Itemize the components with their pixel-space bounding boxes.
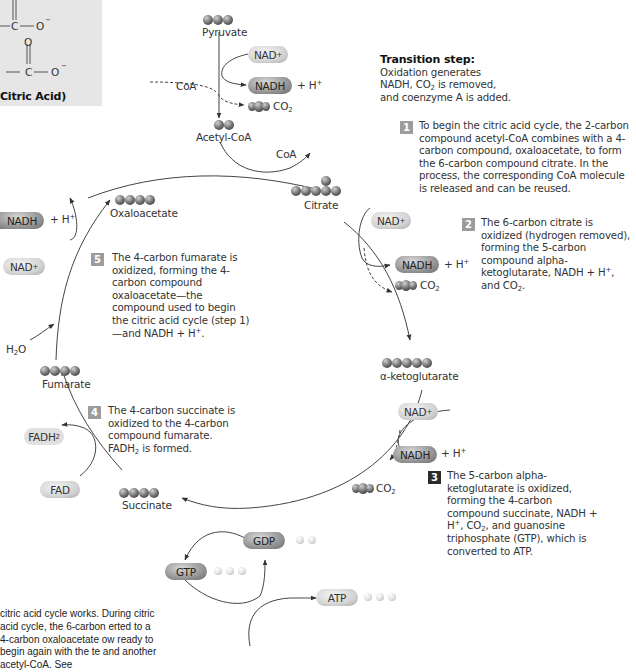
nad-plus-pill: NAD+ xyxy=(398,403,438,420)
carbon-atom xyxy=(40,366,50,376)
carbon-atom xyxy=(139,488,149,498)
co2-label: CO2 xyxy=(376,482,395,494)
citrate-label: Citrate xyxy=(304,199,338,211)
nad-plus-pill: NAD+ xyxy=(3,258,45,275)
succinate-label: Succinate xyxy=(122,499,172,511)
acetyl-coa-label: Acetyl-CoA xyxy=(196,131,251,143)
co2-molecule-icon xyxy=(262,102,270,111)
carbon-atom xyxy=(331,186,341,196)
carbon-atom xyxy=(149,488,159,498)
gtp-pill: GTP xyxy=(165,563,207,580)
step-2-badge: 2 xyxy=(462,218,475,231)
carbon-atom xyxy=(223,15,233,25)
carbon-atom xyxy=(213,15,223,25)
phosphate-icon xyxy=(296,536,304,544)
transition-step-text: Transition step: Oxidation generates NAD… xyxy=(380,54,511,104)
carbon-atom xyxy=(412,358,422,368)
phosphate-icon xyxy=(308,536,316,544)
carbon-atom xyxy=(392,358,402,368)
nadh-pill: NADH xyxy=(393,446,437,463)
co2-label: CO2 xyxy=(273,100,292,112)
carbon-atom xyxy=(115,195,125,205)
phosphate-icon xyxy=(364,593,372,601)
atp-pill: ATP xyxy=(316,589,358,606)
coa-input-label: CoA xyxy=(176,80,196,92)
carbon-atom xyxy=(129,488,139,498)
step-3-badge: 3 xyxy=(428,471,441,484)
step-4-badge: 4 xyxy=(88,406,101,419)
co2-molecule-icon xyxy=(366,484,374,493)
fadh2-pill: FADH2 xyxy=(24,428,64,445)
carbon-atom xyxy=(60,366,70,376)
gdp-pill: GDP xyxy=(243,532,285,549)
fumarate-label: Fumarate xyxy=(42,378,91,390)
carbon-atom xyxy=(214,120,224,130)
step-3-text: The 5-carbon alpha-ketoglutarate is oxid… xyxy=(447,470,607,558)
coa-released-label: CoA xyxy=(276,148,296,160)
alpha-ketoglutarate-label: α-ketoglutarate xyxy=(380,370,459,382)
oxaloacetate-label: Oxaloacetate xyxy=(110,207,178,219)
step-1-text: To begin the citric acid cycle, the 2-ca… xyxy=(419,120,633,196)
plus-h-label: + H+ xyxy=(444,258,469,270)
nad-plus-pill: NAD+ xyxy=(371,212,411,229)
nad-plus-pill: NAD+ xyxy=(248,46,288,63)
nadh-pill: NADH xyxy=(248,77,292,94)
carbon-atom xyxy=(203,15,213,25)
pyruvate-label: Pyruvate xyxy=(202,26,247,38)
carbon-atom xyxy=(382,358,392,368)
phosphate-icon xyxy=(388,593,396,601)
carbon-atom xyxy=(422,358,432,368)
carbon-atom xyxy=(402,358,412,368)
carbon-atom xyxy=(224,120,234,130)
figure-caption: citric acid cycle works. During citric a… xyxy=(0,608,160,672)
step-5-badge: 5 xyxy=(91,253,104,266)
carbon-atom xyxy=(301,186,311,196)
step-2-text: The 6-carbon citrate is oxidized (hydrog… xyxy=(481,217,631,293)
phosphate-icon xyxy=(226,567,234,575)
plus-h-label: + H+ xyxy=(441,447,466,459)
carbon-atom xyxy=(145,195,155,205)
step-4-text: The 4-carbon succinate is oxidized to th… xyxy=(108,405,238,455)
fad-pill: FAD xyxy=(40,481,80,498)
plus-h-label: + H+ xyxy=(50,213,75,225)
phosphate-icon xyxy=(376,593,384,601)
carbon-atom xyxy=(125,195,135,205)
carbon-atom xyxy=(321,186,331,196)
carbon-atom xyxy=(70,366,80,376)
carbon-atom xyxy=(50,366,60,376)
phosphate-icon xyxy=(214,567,222,575)
co2-molecule-icon xyxy=(409,281,417,290)
h2o-label: H2O xyxy=(6,343,26,355)
plus-h-label: + H+ xyxy=(297,79,322,91)
step-1-badge: 1 xyxy=(400,121,413,134)
nadh-pill: NADH xyxy=(0,212,44,229)
co2-label: CO2 xyxy=(420,279,439,291)
step-5-text: The 4-carbon fumarate is oxidized, formi… xyxy=(112,252,252,340)
carbon-atom xyxy=(135,195,145,205)
carbon-atom xyxy=(321,176,331,186)
carbon-atom xyxy=(119,488,129,498)
phosphate-icon xyxy=(238,567,246,575)
carbon-atom xyxy=(291,186,301,196)
nadh-pill: NADH xyxy=(395,256,439,273)
carbon-atom xyxy=(311,186,321,196)
